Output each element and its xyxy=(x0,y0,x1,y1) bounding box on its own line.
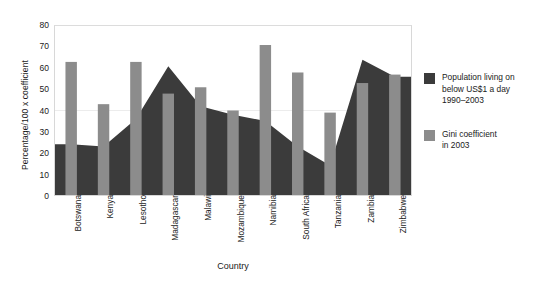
bar-madagascar xyxy=(163,94,174,195)
bar-zimbabwe xyxy=(389,75,400,195)
y-tick-80: 80 xyxy=(27,21,49,29)
plot-area xyxy=(54,25,412,196)
x-tick-zambia: Zambia xyxy=(367,195,376,257)
bar-botswana xyxy=(65,62,76,195)
y-tick-10: 10 xyxy=(27,171,49,179)
legend-item-2: Gini coefficientin 2003 xyxy=(424,129,544,152)
y-tick-50: 50 xyxy=(27,85,49,93)
y-axis-tick-labels: 80706050403020100 xyxy=(27,25,49,196)
chart-legend: Population living onbelow US$1 a day1990… xyxy=(424,72,544,174)
legend-label-2: Gini coefficientin 2003 xyxy=(442,129,497,152)
legend-swatch-icon-2 xyxy=(424,130,435,141)
y-tick-0: 0 xyxy=(27,192,49,200)
y-tick-20: 20 xyxy=(27,149,49,157)
chart-figure: Percentage/100 x coefficient 80706050403… xyxy=(0,0,546,282)
x-axis-tick-labels: BotswanaKenyaLesothoMadagascarMalawiMoza… xyxy=(54,197,412,259)
bar-malawi xyxy=(195,87,206,195)
y-tick-60: 60 xyxy=(27,64,49,72)
bar-mozambique xyxy=(227,111,238,196)
x-tick-tanzania: Tanzania xyxy=(334,195,343,257)
bar-lesotho xyxy=(130,62,141,195)
legend-label-1: Population living onbelow US$1 a day1990… xyxy=(442,72,515,107)
y-tick-70: 70 xyxy=(27,42,49,50)
x-tick-namibia: Namibia xyxy=(269,195,278,257)
bar-namibia xyxy=(260,45,271,195)
x-tick-lesotho: Lesotho xyxy=(139,195,148,257)
x-tick-malawi: Malawi xyxy=(204,195,213,257)
x-axis-title: Country xyxy=(54,261,412,271)
y-tick-40: 40 xyxy=(27,107,49,115)
legend-item-1: Population living onbelow US$1 a day1990… xyxy=(424,72,544,107)
x-tick-south-africa: South Africa xyxy=(302,195,311,257)
chart-canvas xyxy=(55,26,411,195)
x-tick-zimbabwe: Zimbabwe xyxy=(399,195,408,257)
y-tick-30: 30 xyxy=(27,128,49,136)
x-tick-kenya: Kenya xyxy=(106,195,115,257)
bar-zambia xyxy=(357,83,368,195)
legend-swatch-icon-1 xyxy=(424,73,435,84)
x-tick-madagascar: Madagascar xyxy=(171,195,180,257)
bar-kenya xyxy=(98,104,109,195)
x-tick-botswana: Botswana xyxy=(74,195,83,257)
bar-tanzania xyxy=(324,113,335,195)
x-tick-mozambique: Mozambique xyxy=(237,195,246,257)
bar-south-africa xyxy=(292,72,303,195)
